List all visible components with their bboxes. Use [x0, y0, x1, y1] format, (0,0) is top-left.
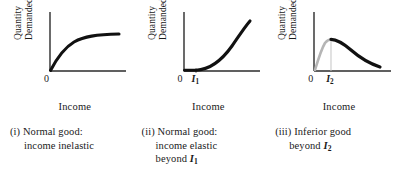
panel-inferior: Quantity Demanded 0 I2 Income (iii) Infe… [267, 0, 401, 168]
caption-1-line1: (i) Normal good: [10, 125, 134, 139]
x-axis-label-2: Income [134, 101, 268, 112]
curve-engel-inelastic [50, 34, 118, 70]
caption-3-line2-sub: 2 [328, 143, 332, 152]
curve-engel-elastic [184, 21, 249, 70]
caption-3-line2-pre: beyond [289, 140, 323, 151]
caption-2-line3-pre: beyond [156, 153, 190, 164]
caption-3-line2: beyond I2 [275, 139, 401, 155]
engel-curves-figure: Quantity Demanded 0 Income (i) Normal go… [0, 0, 401, 176]
plot-area-1: Quantity Demanded 0 [0, 0, 134, 100]
curve-falling-inferior [331, 39, 380, 67]
panel-row: Quantity Demanded 0 Income (i) Normal go… [0, 0, 401, 168]
caption-2-line1: (ii) Normal good: [142, 125, 268, 139]
chart-normal-elastic [134, 0, 268, 100]
caption-1-line2: income inelastic [10, 139, 134, 153]
chart-inferior-good [267, 0, 401, 100]
caption-2-line2: income elastic [142, 139, 268, 153]
caption-3: (iii) Inferior good beyond I2 [267, 125, 401, 155]
caption-2: (ii) Normal good: income elastic beyond … [134, 125, 268, 168]
x-axis-label-1: Income [0, 101, 134, 112]
x-axis-label-3: Income [267, 101, 401, 112]
caption-2-line3: beyond I1 [142, 152, 268, 168]
plot-area-2: Quantity Demanded 0 I1 [134, 0, 268, 100]
caption-3-line1: (iii) Inferior good [275, 125, 401, 139]
panel-normal-inelastic: Quantity Demanded 0 Income (i) Normal go… [0, 0, 134, 168]
chart-normal-inelastic [0, 0, 134, 100]
curve-rising-normal [315, 39, 331, 70]
caption-2-line3-sub: 1 [194, 157, 198, 166]
panel-normal-elastic: Quantity Demanded 0 I1 Income (ii) Norma… [134, 0, 268, 168]
caption-1: (i) Normal good: income inelastic [0, 125, 134, 152]
plot-area-3: Quantity Demanded 0 I2 [267, 0, 401, 100]
